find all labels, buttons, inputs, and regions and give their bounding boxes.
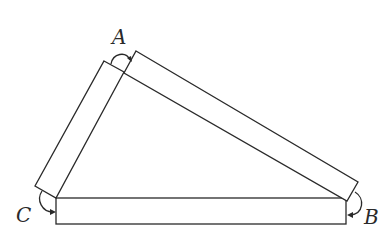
vertex-label-b: B	[363, 205, 379, 229]
bar-cb	[56, 198, 346, 224]
bar-ab	[124, 51, 358, 201]
vertex-label-c: C	[16, 203, 31, 227]
triangle-bars-diagram: A B C	[0, 0, 392, 234]
vertex-label-a: A	[110, 25, 126, 49]
bar-ca	[35, 61, 124, 198]
angle-arrow-a-icon	[111, 54, 132, 64]
